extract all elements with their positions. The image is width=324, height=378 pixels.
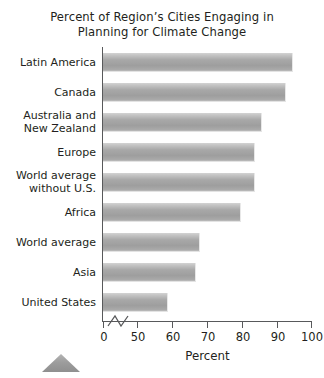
x-tick-label-70: 70 <box>201 330 216 344</box>
category-label-text: Africa <box>65 206 96 219</box>
category-label-world-average: World average <box>0 236 96 249</box>
bar-asia <box>103 263 196 282</box>
category-label-text-2: without U.S. <box>29 182 96 195</box>
chart-title-line-2: Planning for Climate Change <box>10 25 314 40</box>
category-label-text: World average <box>16 236 96 249</box>
x-tick-80 <box>242 322 243 328</box>
x-tick-100 <box>311 322 312 328</box>
category-label-text: United States <box>22 296 97 309</box>
x-tick-label-90: 90 <box>271 330 286 344</box>
chart-title-line-1: Percent of Region’s Cities Engaging in <box>50 10 274 24</box>
x-tick-label-50: 50 <box>131 330 146 344</box>
x-tick-70 <box>207 322 208 328</box>
category-label-text: Latin America <box>20 56 96 69</box>
category-label-text: Canada <box>54 86 96 99</box>
bar-united-states <box>103 293 168 312</box>
chart-title: Percent of Region’s Cities Engaging in P… <box>10 10 314 40</box>
x-tick-50 <box>137 322 138 328</box>
chart-figure: Percent of Region’s Cities Engaging in P… <box>0 0 324 378</box>
category-label-europe: Europe <box>0 146 96 159</box>
x-tick-label-60: 60 <box>166 330 181 344</box>
x-tick-90 <box>277 322 278 328</box>
x-tick-label-0: 0 <box>100 330 107 344</box>
bar-australia-new-zealand <box>103 113 262 132</box>
triangle-marker-icon <box>40 352 82 374</box>
bar-europe <box>103 143 255 162</box>
category-label-text-2: New Zealand <box>24 122 96 135</box>
axis-break-icon <box>106 313 136 327</box>
x-tick-label-80: 80 <box>236 330 251 344</box>
category-label-text: World average <box>16 169 96 182</box>
category-label-latin-america: Latin America <box>0 56 96 69</box>
bar-africa <box>103 203 241 222</box>
bar-world-average <box>103 233 200 252</box>
x-tick-60 <box>172 322 173 328</box>
bar-world-average-without-us <box>103 173 255 192</box>
category-label-text: Australia and <box>23 109 96 122</box>
category-label-world-average-without-us: World average without U.S. <box>0 169 96 195</box>
x-tick-label-100: 100 <box>301 330 323 344</box>
plot-area <box>103 48 312 321</box>
x-axis-title: Percent <box>103 349 312 363</box>
category-label-australia-new-zealand: Australia and New Zealand <box>0 109 96 135</box>
category-label-united-states: United States <box>0 296 96 309</box>
category-label-text: Europe <box>57 146 96 159</box>
category-label-asia: Asia <box>0 266 96 279</box>
category-label-africa: Africa <box>0 206 96 219</box>
bar-latin-america <box>103 53 293 72</box>
bar-canada <box>103 83 286 102</box>
category-label-canada: Canada <box>0 86 96 99</box>
category-label-text: Asia <box>73 266 96 279</box>
x-tick-0 <box>103 322 104 328</box>
